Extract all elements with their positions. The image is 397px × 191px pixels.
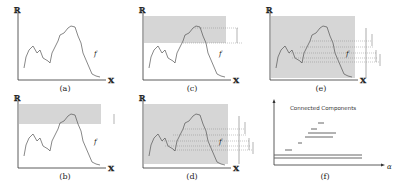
caption-c: (c)	[177, 84, 207, 93]
y-axis-label: ℝ	[138, 5, 146, 15]
panel-b: ℝ 𝕏 f (b)	[10, 98, 125, 170]
f-label: f	[218, 50, 223, 58]
caption-f: (f)	[310, 172, 340, 181]
y-axis-label: ℝ	[13, 5, 21, 15]
function-plot-d: ℝ 𝕏 f	[135, 98, 265, 170]
function-plot-c: ℝ 𝕏 f	[135, 10, 255, 82]
function-plot-b: ℝ 𝕏 f	[10, 98, 125, 170]
y-axis-label: ℝ	[138, 93, 146, 103]
function-plot-e: ℝ 𝕏 f	[262, 10, 392, 82]
caption-b: (b)	[50, 172, 80, 181]
x-axis-label: 𝕏	[232, 75, 240, 85]
connected-components-plot: Connected Components α	[270, 98, 395, 170]
panel-c: ℝ 𝕏 f (c)	[135, 10, 255, 82]
panel-a: ℝ 𝕏 f (a)	[10, 10, 120, 82]
x-axis-label: 𝕏	[107, 75, 115, 85]
chart-title: Connected Components	[290, 105, 356, 112]
caption-d: (d)	[177, 172, 207, 181]
y-axis-label: ℝ	[265, 5, 273, 15]
caption-a: (a)	[50, 84, 80, 93]
function-plot-a: ℝ 𝕏 f	[10, 10, 120, 82]
caption-e: (e)	[306, 84, 336, 93]
x-axis-label: 𝕏	[359, 75, 367, 85]
x-axis-label: α	[387, 163, 392, 171]
f-label: f	[93, 138, 98, 146]
x-axis-label: 𝕏	[232, 163, 240, 173]
panel-e: ℝ 𝕏 f (e)	[262, 10, 392, 82]
panel-d: ℝ 𝕏 f (d)	[135, 98, 265, 170]
y-axis-label: ℝ	[13, 93, 21, 103]
f-label: f	[93, 50, 98, 58]
x-axis-label: 𝕏	[107, 163, 115, 173]
panel-f: Connected Components α (f)	[270, 98, 395, 170]
